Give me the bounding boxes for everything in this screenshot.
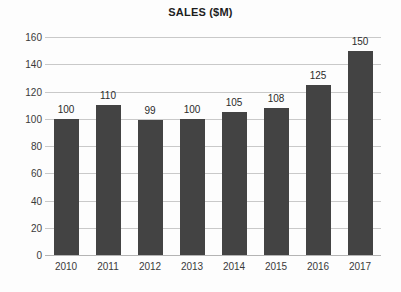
y-axis-tick-label: 140 <box>8 59 42 70</box>
bar-value-label: 150 <box>340 36 380 47</box>
y-axis-tick-label: 40 <box>8 195 42 206</box>
bar-value-label: 105 <box>214 97 254 108</box>
x-axis-tick-label: 2014 <box>213 261 255 272</box>
bar-value-label: 125 <box>298 70 338 81</box>
gridline <box>45 255 381 256</box>
y-axis-tick-label: 160 <box>8 32 42 43</box>
y-axis-tick-label: 0 <box>8 250 42 261</box>
bar[interactable] <box>264 108 289 255</box>
y-axis-tick-label: 100 <box>8 113 42 124</box>
y-axis-tick-label: 20 <box>8 222 42 233</box>
x-axis-tick-label: 2013 <box>171 261 213 272</box>
sales-bar-chart: SALES ($M) 02040608010012014016010020101… <box>0 0 401 292</box>
bar[interactable] <box>306 85 331 255</box>
bar[interactable] <box>138 120 163 255</box>
gridline <box>45 64 381 65</box>
x-axis-tick-label: 2010 <box>45 261 87 272</box>
y-axis-tick-label: 120 <box>8 86 42 97</box>
y-axis-tick-label: 80 <box>8 141 42 152</box>
bar[interactable] <box>96 105 121 255</box>
gridline <box>45 37 381 38</box>
x-axis-tick-label: 2017 <box>339 261 381 272</box>
x-axis-tick-label: 2012 <box>129 261 171 272</box>
bar[interactable] <box>222 112 247 255</box>
x-axis-tick-label: 2016 <box>297 261 339 272</box>
x-axis-tick-label: 2011 <box>87 261 129 272</box>
bar-value-label: 108 <box>256 93 296 104</box>
bar-value-label: 100 <box>46 104 86 115</box>
bar-value-label: 110 <box>88 90 128 101</box>
bar[interactable] <box>54 119 79 255</box>
y-axis-tick-label: 60 <box>8 168 42 179</box>
x-axis-tick-label: 2015 <box>255 261 297 272</box>
bar-value-label: 100 <box>172 104 212 115</box>
bar[interactable] <box>348 51 373 255</box>
chart-title: SALES ($M) <box>0 6 401 18</box>
bar[interactable] <box>180 119 205 255</box>
bar-value-label: 99 <box>130 105 170 116</box>
